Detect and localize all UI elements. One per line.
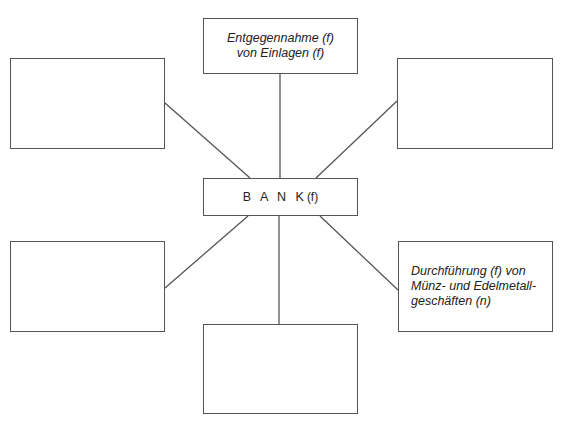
node-bottom-right-line1: Durchführung (f) von bbox=[411, 264, 536, 279]
node-center-bank: B A N K (f) bbox=[203, 178, 358, 216]
node-bottom-right-line2: Münz- und Edelmetall- bbox=[411, 279, 536, 294]
node-bottom bbox=[203, 324, 358, 414]
node-top-right bbox=[397, 58, 553, 149]
node-top-line1: Entgegennahme (f) bbox=[227, 31, 334, 46]
connector-top-left bbox=[165, 103, 250, 178]
connector-top-right bbox=[316, 101, 397, 178]
connector-bottom-left bbox=[165, 216, 248, 288]
node-bottom-right-line3: geschäften (n) bbox=[411, 294, 536, 309]
bank-label: B A N K bbox=[243, 190, 307, 204]
connector-bottom-right bbox=[320, 216, 398, 290]
node-bottom-left bbox=[10, 241, 165, 332]
node-bottom-right: Durchführung (f) von Münz- und Edelmetal… bbox=[398, 241, 553, 332]
bank-gender: (f) bbox=[307, 190, 318, 204]
node-top-line2: von Einlagen (f) bbox=[227, 46, 334, 61]
node-top-left bbox=[10, 58, 165, 149]
node-top: Entgegennahme (f) von Einlagen (f) bbox=[203, 18, 358, 74]
